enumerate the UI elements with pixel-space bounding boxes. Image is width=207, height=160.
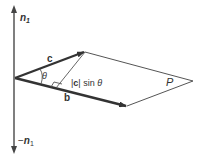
vector-b-label: b — [64, 92, 70, 103]
parallelogram-diagram: n1 −n1 c b θ |c| sin θ P — [0, 0, 207, 160]
n1-label: n1 — [20, 12, 30, 24]
parallelogram-top-edge — [85, 52, 193, 81]
plane-p-label: P — [166, 76, 174, 88]
parallelogram-right-edge — [127, 81, 193, 106]
n1-arrow-icon — [11, 5, 17, 13]
height-label: |c| sin θ — [71, 78, 102, 88]
vector-c-label: c — [47, 53, 53, 64]
minus-n1-arrow-icon — [11, 146, 17, 154]
minus-n1-label: −n1 — [18, 135, 34, 147]
theta-label: θ — [42, 71, 47, 81]
